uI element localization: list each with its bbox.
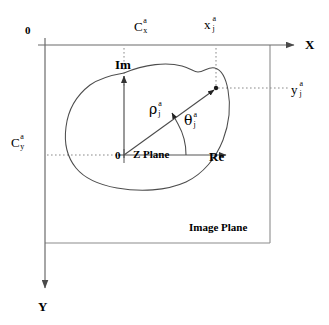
theta-superscript: a [193, 111, 197, 119]
im-axis-label: Im [115, 58, 131, 71]
centroid-x-subscript: x [143, 27, 147, 35]
centroid-x-indices: a x [143, 17, 147, 35]
point-y-label: y a j [291, 80, 303, 98]
x-axis-label: X [305, 38, 314, 51]
region-blob [65, 64, 229, 190]
y-axis-label: Y [38, 300, 47, 313]
z-plane-label: Z Plane [133, 149, 169, 160]
point-y-superscript: a [300, 80, 304, 88]
point-x-superscript: a [213, 15, 217, 23]
centroid-y-subscript: y [20, 143, 24, 151]
theta-indices: a j [193, 111, 197, 129]
point-x-label: x a j [204, 15, 216, 33]
point-x-base: x [204, 18, 211, 31]
point-y-subscript: j [300, 90, 304, 98]
point-marker [214, 86, 218, 90]
image-origin-label: 0 [25, 25, 31, 36]
diagram-canvas: 0 X Y Im Re 0 Z Plane Image Plane C a x … [0, 0, 329, 325]
rho-indices: a j [158, 100, 162, 118]
z-plane-axes [118, 76, 226, 158]
centroid-y-indices: a y [20, 133, 24, 151]
centroid-x-label: C a x [134, 17, 147, 35]
rho-label: ρ a j [149, 100, 162, 118]
rho-subscript: j [158, 110, 162, 118]
centroid-x-base: C [134, 20, 143, 33]
rho-superscript: a [158, 100, 162, 108]
point-x-subscript: j [213, 25, 217, 33]
re-axis-label: Re [209, 150, 224, 163]
rho-vector [124, 90, 214, 155]
point-x-indices: a j [213, 15, 217, 33]
point-y-base: y [291, 83, 298, 96]
theta-base: θ [184, 113, 192, 127]
theta-subscript: j [193, 121, 197, 129]
diagram-vector-layer [0, 0, 329, 325]
image-plane-label: Image Plane [189, 222, 247, 233]
centroid-y-base: C [11, 136, 20, 149]
rho-base: ρ [149, 102, 157, 116]
centroid-y-label: C a y [11, 133, 24, 151]
image-plane-frame [45, 45, 270, 243]
centroid-y-superscript: a [20, 133, 24, 141]
theta-label: θ a j [184, 111, 197, 129]
z-origin-label: 0 [115, 150, 121, 161]
centroid-x-superscript: a [143, 17, 147, 25]
point-y-indices: a j [300, 80, 304, 98]
